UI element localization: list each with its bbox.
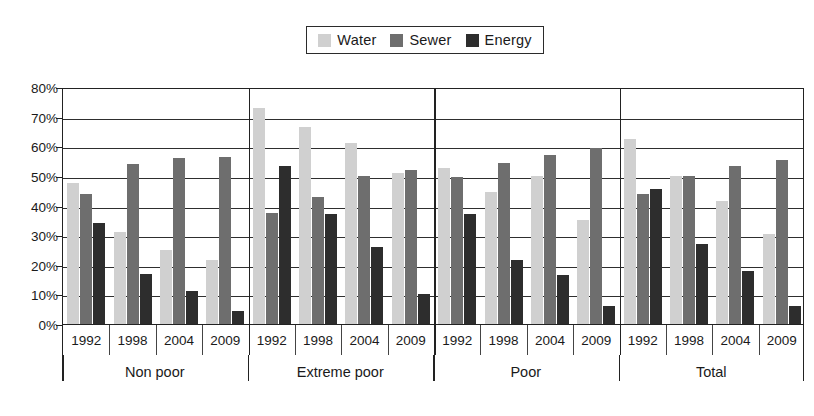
bar-water	[67, 183, 79, 324]
bar-sewer	[405, 170, 417, 324]
x-tick-label-year: 1992	[434, 325, 480, 355]
bar-sewer	[544, 155, 556, 324]
bar-cluster	[573, 89, 619, 324]
bar-cluster	[666, 89, 712, 324]
bar-energy	[511, 260, 523, 324]
bar-cluster	[63, 89, 109, 324]
bar-energy	[696, 244, 708, 324]
x-tick-label-year: 2004	[156, 325, 202, 355]
bar-energy	[742, 271, 754, 324]
year-cell-divider	[620, 325, 622, 355]
x-tick-label-year: 2004	[712, 325, 758, 355]
year-cell-divider	[573, 325, 574, 355]
bar-energy	[650, 189, 662, 324]
bar-water	[392, 173, 404, 324]
bar-cluster	[527, 89, 573, 324]
bar-water	[299, 127, 311, 324]
bar-energy	[279, 166, 291, 324]
bar-water	[531, 176, 543, 324]
bar-energy	[232, 311, 244, 324]
bar-sewer	[498, 163, 510, 324]
bar-sewer	[451, 177, 463, 324]
group-boundary-tick	[433, 355, 435, 381]
year-cell-divider	[202, 325, 203, 355]
bar-energy	[371, 247, 383, 324]
bar-cluster	[295, 89, 341, 324]
bar-sewer	[266, 213, 278, 324]
x-tick-label-year: 1992	[620, 325, 666, 355]
x-tick-label-year: 1998	[295, 325, 341, 355]
bar-sewer	[219, 157, 231, 324]
bar-water	[485, 192, 497, 324]
y-tick-label: 80%	[6, 81, 58, 96]
year-cell-divider	[759, 325, 760, 355]
x-axis-group-label: Total	[619, 355, 805, 389]
x-tick-label-year: 2009	[573, 325, 619, 355]
bar-cluster	[434, 89, 480, 324]
x-axis-group-label: Non poor	[62, 355, 248, 389]
legend-label-water: Water	[337, 32, 376, 48]
bar-sewer	[173, 158, 185, 324]
x-tick-label-year: 1992	[63, 325, 109, 355]
bar-cluster	[480, 89, 526, 324]
x-tick-label-year: 2009	[388, 325, 434, 355]
bar-water	[624, 139, 636, 324]
bar-cluster	[249, 89, 295, 324]
bar-water	[577, 220, 589, 324]
x-tick-label-year: 2004	[527, 325, 573, 355]
chart-legend: Water Sewer Energy	[306, 26, 544, 54]
bar-water	[206, 260, 218, 324]
x-tick-label-year: 2009	[202, 325, 248, 355]
y-tick-label: 40%	[6, 199, 58, 214]
year-cell-divider	[341, 325, 342, 355]
bar-sewer	[312, 197, 324, 324]
bar-energy	[186, 291, 198, 324]
bar-cluster	[388, 89, 434, 324]
legend-entry-water: Water	[318, 32, 376, 48]
year-cell-divider	[249, 325, 251, 355]
bar-sewer	[776, 160, 788, 324]
y-tick-label: 70%	[6, 110, 58, 125]
bar-sewer	[590, 148, 602, 324]
x-tick-label-year: 2009	[759, 325, 805, 355]
bar-cluster	[620, 89, 666, 324]
energy-swatch-icon	[466, 34, 479, 47]
bar-energy	[140, 274, 152, 324]
bar-cluster	[759, 89, 805, 324]
y-tick-label: 20%	[6, 258, 58, 273]
bar-energy	[418, 294, 430, 324]
legend-entry-sewer: Sewer	[390, 32, 451, 48]
legend-label-sewer: Sewer	[409, 32, 451, 48]
bar-energy	[557, 275, 569, 324]
year-cell-divider	[480, 325, 481, 355]
bar-water	[670, 176, 682, 324]
x-tick-label-year: 1998	[666, 325, 712, 355]
bar-water	[763, 234, 775, 324]
bar-water	[345, 143, 357, 324]
bar-water	[253, 108, 265, 324]
bar-water	[114, 232, 126, 324]
x-axis-year-labels: 1992199820042009199219982004200919921998…	[62, 325, 804, 355]
sewer-swatch-icon	[390, 34, 403, 47]
y-tick-label: 0%	[6, 318, 58, 333]
bar-sewer	[637, 194, 649, 324]
x-tick-label-year: 2004	[341, 325, 387, 355]
year-cell-divider	[527, 325, 528, 355]
year-cell-divider	[434, 325, 436, 355]
bar-water	[160, 250, 172, 324]
bar-sewer	[729, 166, 741, 324]
bar-cluster	[156, 89, 202, 324]
bar-cluster	[109, 89, 155, 324]
bar-sewer	[80, 194, 92, 324]
legend-entry-energy: Energy	[466, 32, 532, 48]
bar-cluster	[712, 89, 758, 324]
bar-water	[438, 168, 450, 324]
year-cell-divider	[109, 325, 110, 355]
x-axis-group-labels: Non poorExtreme poorPoorTotal	[62, 355, 804, 389]
y-tick-label: 10%	[6, 288, 58, 303]
x-tick-label-year: 1992	[249, 325, 295, 355]
year-cell-divider	[388, 325, 389, 355]
y-tick-label: 50%	[6, 169, 58, 184]
bar-energy	[93, 223, 105, 324]
year-cell-divider	[666, 325, 667, 355]
